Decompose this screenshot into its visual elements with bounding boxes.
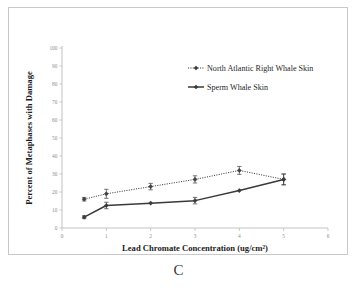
data-point-marker [237, 168, 241, 172]
y-tick-label: 70 [52, 99, 58, 105]
x-tick-label: 0 [61, 233, 64, 239]
y-tick-label: 10 [52, 207, 58, 213]
y-tick-label: 0 [55, 225, 58, 231]
y-axis-title: Percent of Metaphases with Damage [24, 71, 34, 205]
x-tick-label: 4 [238, 233, 241, 239]
x-axis-title: Lead Chromate Concentration (ug/cm²) [122, 243, 268, 253]
y-tick-label: 80 [52, 81, 58, 87]
series-line-2 [84, 179, 284, 217]
y-tick-label: 90 [52, 63, 58, 69]
data-series-group [82, 166, 286, 219]
figure-panel-c: 0102030405060708090100 0123456 North Atl… [0, 0, 357, 290]
legend-label-1: North Atlantic Right Whale Skin [207, 64, 313, 73]
y-tick-label: 50 [52, 135, 58, 141]
x-tick-label: 5 [282, 233, 285, 239]
x-tick-label: 1 [105, 233, 108, 239]
x-tick-label: 2 [149, 233, 152, 239]
data-point-marker [237, 188, 241, 192]
y-tick-label: 20 [52, 189, 58, 195]
y-tick-label: 100 [49, 45, 57, 51]
data-point-marker [193, 199, 197, 203]
data-point-marker [149, 185, 153, 189]
panel-label: C [0, 262, 357, 279]
chart-canvas: 0102030405060708090100 0123456 North Atl… [0, 0, 357, 290]
data-point-marker [149, 201, 153, 205]
data-point-marker [193, 177, 197, 181]
y-tick-label: 40 [52, 153, 58, 159]
data-point-marker [194, 66, 198, 70]
chart-legend: North Atlantic Right Whale SkinSperm Wha… [188, 64, 313, 92]
x-tick-label: 3 [194, 233, 197, 239]
y-tick-label: 60 [52, 117, 58, 123]
y-axis-ticks: 0102030405060708090100 [49, 45, 62, 231]
legend-label-2: Sperm Whale Skin [207, 83, 268, 92]
x-tick-label: 6 [327, 233, 330, 239]
data-point-marker [282, 177, 286, 181]
y-tick-label: 30 [52, 171, 58, 177]
data-point-marker [104, 192, 108, 196]
axes-group: 0102030405060708090100 0123456 [49, 45, 329, 239]
x-axis-ticks: 0123456 [61, 228, 330, 239]
series-line-1 [84, 170, 284, 199]
data-point-marker [194, 85, 198, 89]
